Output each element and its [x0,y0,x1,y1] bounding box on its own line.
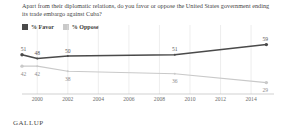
chart-legend: % Favor % Oppose [22,24,99,30]
data-label-oppose-2000: 42 [34,71,40,77]
legend-item-favor: % Favor [22,24,54,30]
data-label-favor-2009: 51 [172,46,178,52]
data-label-oppose-2009: 36 [172,78,178,84]
data-label-oppose-1999: 42 [21,71,27,77]
x-tick-2012: 2012 [215,96,226,102]
data-label-favor-2015: 59 [263,36,269,42]
legend-label-favor: % Favor [31,24,54,30]
x-tick-2002: 2002 [62,96,73,102]
data-label-favor-2000: 48 [34,50,40,56]
gallup-logo: GALLUP [13,119,44,127]
x-tick-2006: 2006 [123,96,134,102]
x-axis: 20002002200420062008201020122014 [22,96,274,106]
legend-label-oppose: % Oppose [72,24,99,30]
x-tick-2008: 2008 [154,96,165,102]
chart-title: Apart from their diplomatic relations, d… [22,2,270,18]
legend-item-oppose: % Oppose [63,24,99,30]
x-tick-2000: 2000 [32,96,43,102]
data-label-oppose-2015: 29 [263,87,269,93]
data-label-favor-1999: 51 [21,46,27,52]
legend-swatch-favor [22,24,28,30]
x-tick-2004: 2004 [93,96,104,102]
data-label-oppose-2002: 38 [65,76,71,82]
data-label-favor-2002: 50 [65,48,71,54]
chart-svg [22,37,274,94]
chart-plot-area [22,37,274,94]
x-tick-2010: 2010 [184,96,195,102]
chart-page: Apart from their diplomatic relations, d… [0,0,283,135]
x-tick-2014: 2014 [245,96,256,102]
